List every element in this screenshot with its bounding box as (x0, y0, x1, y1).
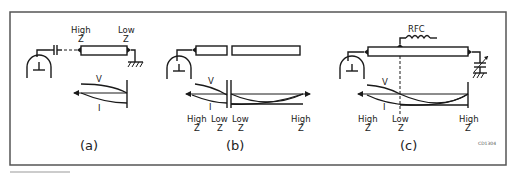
voltage-label: V (382, 77, 388, 87)
label-z: Z (217, 123, 223, 133)
voltage-label: V (96, 74, 102, 84)
current-label: I (383, 102, 386, 112)
figure-code: CD1304 (478, 141, 496, 146)
label-z: Z (398, 123, 404, 133)
label-z: Z (123, 34, 129, 44)
panel-caption: (c) (400, 138, 417, 153)
panel-caption: (b) (226, 138, 244, 153)
voltage-label: V (208, 76, 214, 86)
label-z: Z (194, 123, 200, 133)
transmission-line-diagram: High Z Low Z V I (a) (0, 0, 513, 175)
label-z: Z (238, 123, 244, 133)
label-z: Z (298, 123, 304, 133)
label-z: Z (365, 123, 371, 133)
label-z: Z (465, 123, 471, 133)
current-label: I (209, 102, 212, 112)
rfc-label: RFC (408, 24, 425, 34)
label-z: Z (78, 34, 84, 44)
panel-caption: (a) (80, 138, 98, 153)
current-label: I (98, 103, 101, 113)
